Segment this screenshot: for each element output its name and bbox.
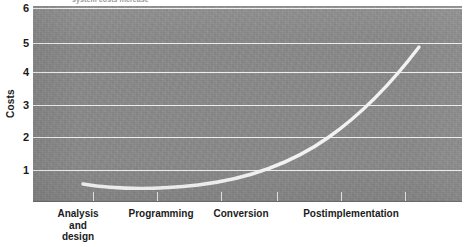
x-axis-line [33,201,462,202]
y-axis-title: Costs [5,81,16,127]
x-label-analysis-and-design: Analysis and design [42,208,114,243]
cut-off-caption-text: system costs increase [72,0,190,3]
plot-area [33,6,462,202]
y-tick-label-6: 6 [13,3,29,14]
cost-curve-line [33,6,462,202]
cost-curve-figure: system costs increase 6 5 4 3 2 1 Costs … [0,0,468,247]
y-tick-label-5: 5 [13,38,29,49]
cut-off-caption: system costs increase [72,0,190,4]
y-tick-label-1: 1 [13,165,29,176]
x-label-postimplementation: Postimplementation [288,208,414,220]
x-label-programming: Programming [119,208,203,220]
y-tick-label-4: 4 [13,67,29,78]
x-label-conversion: Conversion [203,208,279,220]
y-tick-label-2: 2 [13,132,29,143]
